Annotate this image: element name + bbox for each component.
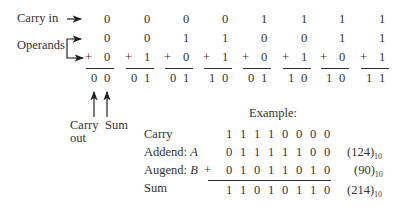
operand-b-digit: 0 (258, 50, 270, 65)
plus-sign: + (204, 163, 211, 178)
operand-b-digit: 0 (101, 50, 113, 65)
operand-b-digit: 1 (219, 50, 231, 65)
bit: 1 (279, 145, 291, 160)
plus-sign: + (242, 50, 249, 65)
operand-a-digit: 1 (376, 31, 388, 46)
operand-a-digit: 0 (141, 31, 153, 46)
operand-b-digit: 1 (376, 50, 388, 65)
sum-digit: 1 (258, 71, 270, 86)
bit: 0 (307, 127, 319, 142)
sum-rule (283, 68, 311, 69)
bit: 0 (223, 145, 235, 160)
sum-digit: 0 (298, 71, 310, 86)
bit: 1 (265, 183, 277, 198)
example-augend-label: Augend: B (144, 163, 198, 178)
carry-in-digit: 0 (101, 12, 113, 27)
bit: 0 (293, 163, 305, 178)
plus-sign: + (282, 50, 289, 65)
bit: 0 (251, 183, 263, 198)
carry-out-label-line2: out (70, 131, 86, 146)
bit: 1 (237, 163, 249, 178)
plus-sign: + (85, 50, 92, 65)
bit: 0 (321, 183, 333, 198)
bit: 0 (321, 145, 333, 160)
operand-b-digit: 0 (180, 50, 192, 65)
bit: 0 (279, 183, 291, 198)
bit: 1 (307, 163, 319, 178)
example-carry-label: Carry (144, 127, 172, 142)
example-addend-label: Addend: A (144, 145, 198, 160)
plus-sign: + (320, 50, 327, 65)
example-sum-rule (208, 180, 331, 181)
operand-b-digit: 1 (141, 50, 153, 65)
bit: 1 (237, 145, 249, 160)
carry-in-digit: 0 (180, 12, 192, 27)
operand-b-digit: 0 (336, 50, 348, 65)
operands-bracket-icon (67, 39, 72, 58)
carry-in-digit: 1 (258, 12, 270, 27)
sum-label: Sum (105, 118, 128, 133)
carry-out-digit: 0 (167, 71, 179, 86)
sum-rule (86, 68, 114, 69)
sum-digit: 1 (141, 71, 153, 86)
carry-out-digit: 1 (285, 71, 297, 86)
operand-a-digit: 0 (101, 31, 113, 46)
bit: 1 (251, 127, 263, 142)
carry-out-digit: 0 (245, 71, 257, 86)
operand-a-digit: 0 (298, 31, 310, 46)
bit: 0 (307, 145, 319, 160)
sum-rule (126, 68, 154, 69)
bit: 0 (279, 127, 291, 142)
plus-sign: + (360, 50, 367, 65)
sum-rule (321, 68, 349, 69)
carry-out-digit: 0 (88, 71, 100, 86)
sum-digit: 0 (336, 71, 348, 86)
bit: 1 (293, 183, 305, 198)
sum-rule (165, 68, 193, 69)
sum-rule (243, 68, 271, 69)
carry-in-digit: 0 (219, 12, 231, 27)
carry-in-digit: 1 (336, 12, 348, 27)
bit: 1 (237, 183, 249, 198)
sum-digit: 1 (376, 71, 388, 86)
carry-out-digit: 1 (363, 71, 375, 86)
addend-decimal: (124)10 (347, 145, 382, 161)
bit: 1 (265, 127, 277, 142)
carry-out-digit: 1 (206, 71, 218, 86)
bit: 1 (265, 163, 277, 178)
bit: 1 (237, 127, 249, 142)
operand-a-digit: 1 (180, 31, 192, 46)
operand-a-digit: 0 (258, 31, 270, 46)
carry-in-digit: 0 (141, 12, 153, 27)
example-title: Example: (249, 106, 297, 121)
carry-in-digit: 1 (376, 12, 388, 27)
carry-in-digit: 1 (298, 12, 310, 27)
bit: 0 (321, 127, 333, 142)
operand-a-digit: 1 (336, 31, 348, 46)
bit: 1 (251, 145, 263, 160)
bit: 1 (307, 183, 319, 198)
bit: 0 (251, 163, 263, 178)
augend-decimal: (90)10 (354, 163, 383, 179)
bit: 1 (279, 163, 291, 178)
sum-digit: 1 (180, 71, 192, 86)
bit: 1 (265, 145, 277, 160)
plus-sign: + (164, 50, 171, 65)
carry-out-digit: 0 (128, 71, 140, 86)
sum-decimal: (214)10 (347, 183, 382, 199)
sum-rule (204, 68, 232, 69)
bit: 1 (223, 127, 235, 142)
bit: 0 (321, 163, 333, 178)
bit: 1 (223, 183, 235, 198)
operand-b-digit: 1 (298, 50, 310, 65)
operand-a-digit: 1 (219, 31, 231, 46)
bit: 0 (223, 163, 235, 178)
carry-out-digit: 1 (323, 71, 335, 86)
plus-sign: + (125, 50, 132, 65)
bit: 1 (293, 145, 305, 160)
sum-digit: 0 (219, 71, 231, 86)
plus-sign: + (203, 50, 210, 65)
bit: 0 (293, 127, 305, 142)
sum-digit: 0 (101, 71, 113, 86)
sum-rule (361, 68, 389, 69)
